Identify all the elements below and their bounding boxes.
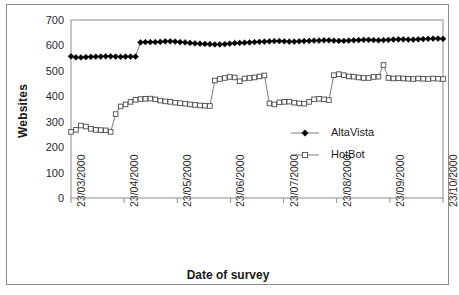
legend-markers (291, 130, 319, 158)
data-series-layer (68, 36, 446, 135)
legend-item-hotbot[interactable]: HotBot (331, 148, 365, 160)
legend-item-altavista[interactable]: AltaVista (331, 126, 374, 138)
axis-lines (71, 20, 443, 198)
axis-tick-marks (71, 198, 443, 203)
